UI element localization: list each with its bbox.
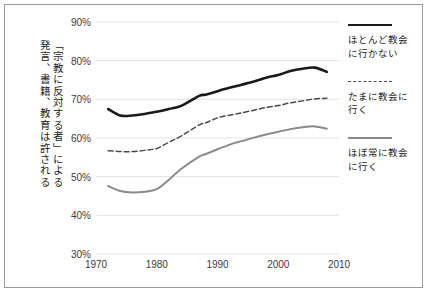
legend: ほとんど教会に行かないたまに教会に行くほぼ常に教会に行く [348, 20, 420, 190]
legend-label-line-1: たまに教会に [348, 90, 420, 104]
legend-item-1[interactable]: ほとんど教会に行かない [348, 20, 420, 61]
gridlines [96, 22, 339, 254]
legend-label: ほとんど教会に行かない [348, 33, 420, 61]
series-line-3 [108, 126, 327, 192]
legend-item-3[interactable]: ほぼ常に教会に行く [348, 133, 420, 174]
y-tick-label: 90% [71, 17, 91, 28]
y-tick-label: 60% [71, 133, 91, 144]
legend-swatch-icon [348, 133, 392, 143]
legend-item-2[interactable]: たまに教会に行く [348, 77, 420, 118]
legend-label: ほぼ常に教会に行く [348, 146, 420, 174]
legend-label-line-1: ほぼ常に教会 [348, 146, 420, 160]
legend-label-line-2: 行く [348, 103, 420, 117]
legend-label-line-1: ほとんど教会 [348, 33, 420, 47]
x-tick-label: 2000 [267, 259, 289, 270]
x-tick-label: 1980 [146, 259, 168, 270]
series-lines [108, 67, 327, 192]
y-axis-title: 「宗教に反対する者」による 発言、書籍、教育は許される [18, 40, 62, 255]
y-tick-label: 30% [71, 249, 91, 260]
plot-svg [96, 22, 339, 254]
chart-figure: 「宗教に反対する者」による 発言、書籍、教育は許される 30%40%50%60%… [0, 0, 427, 292]
legend-label-line-2: に行く [348, 160, 420, 174]
x-tick-label: 1990 [206, 259, 228, 270]
y-tick-label: 80% [71, 55, 91, 66]
series-line-2 [108, 98, 327, 151]
y-axis-title-column-2: 発言、書籍、教育は許される [38, 40, 50, 188]
y-tick-label: 50% [71, 171, 91, 182]
plot-area: 30%40%50%60%70%80%90% 197019801990200020… [96, 22, 339, 254]
legend-swatch-icon [348, 20, 392, 30]
legend-label-line-2: に行かない [348, 47, 420, 61]
legend-label: たまに教会に行く [348, 90, 420, 118]
series-line-1 [108, 67, 327, 116]
y-tick-label: 70% [71, 94, 91, 105]
y-axis-title-column-1: 「宗教に反対する者」による [50, 40, 62, 188]
x-tick-label: 1970 [85, 259, 107, 270]
x-tick-label: 2010 [328, 259, 350, 270]
legend-swatch-icon [348, 77, 392, 87]
y-tick-label: 40% [71, 210, 91, 221]
